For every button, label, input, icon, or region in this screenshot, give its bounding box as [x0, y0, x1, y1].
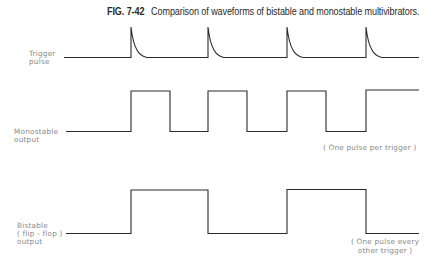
trigger-pulse-waveform	[64, 27, 419, 58]
bistable-output-waveform	[66, 190, 419, 234]
monostable-output-waveform	[66, 90, 419, 132]
waveform-diagram	[0, 0, 442, 272]
